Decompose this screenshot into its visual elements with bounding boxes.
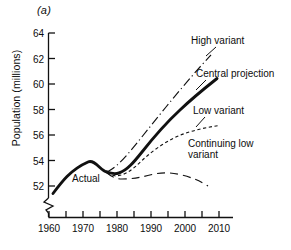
x-tick-label: 1990: [140, 223, 163, 234]
y-tick-label: 58: [33, 105, 45, 116]
annotation-continuing-low-variant-line1: Continuing low: [188, 138, 254, 149]
x-tick-label: 1970: [72, 223, 95, 234]
x-tick-label: 1960: [38, 223, 61, 234]
annotation-low-variant: Low variant: [193, 105, 244, 116]
y-axis-break-icon: [44, 198, 53, 213]
y-tick-label: 52: [33, 181, 45, 192]
annotation-high-variant: High variant: [191, 35, 245, 46]
annotation-central-projection: Central projection: [196, 68, 274, 79]
annotation-continuing-low-variant-line2: variant: [188, 149, 218, 160]
x-axis: 1960 1970 1980 1990 2000 2010: [38, 211, 233, 234]
x-tick-label: 2010: [208, 223, 231, 234]
y-tick-label: 56: [33, 130, 45, 141]
y-tick-label: 60: [33, 79, 45, 90]
y-tick-label: 62: [33, 54, 45, 65]
x-tick-labels: 1960 1970 1980 1990 2000 2010: [38, 223, 231, 234]
y-tick-label: 64: [33, 28, 45, 39]
series-continuing-low-variant: [107, 173, 208, 186]
y-tick-label: 54: [33, 156, 45, 167]
x-tick-label: 2000: [174, 223, 197, 234]
annotation-actual: Actual: [72, 173, 100, 184]
chart-svg: 64 62 60 58 56 54 52: [0, 0, 291, 250]
population-projection-figure: (a) Population (millions) 64 62 60: [0, 0, 291, 250]
x-tick-label: 1980: [106, 223, 129, 234]
y-axis: 64 62 60 58 56 54 52: [33, 28, 55, 217]
y-tick-labels: 64 62 60 58 56 54 52: [33, 28, 45, 192]
